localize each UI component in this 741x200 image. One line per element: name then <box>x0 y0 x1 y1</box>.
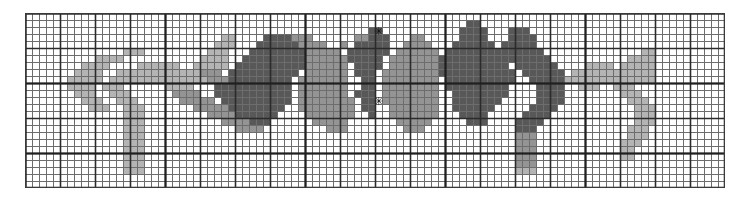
pixel-grid-plot: ✳✳ <box>25 13 725 188</box>
figure-canvas: ✳✳ <box>0 0 741 200</box>
pixel-bitmap-layer <box>25 13 725 188</box>
